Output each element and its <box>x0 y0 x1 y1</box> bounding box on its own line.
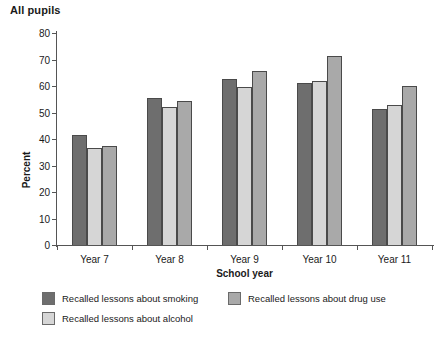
x-tick-label: Year 11 <box>378 254 411 265</box>
y-tick-label: 80 <box>39 28 50 39</box>
y-tick-label: 0 <box>44 240 50 251</box>
bar[interactable] <box>402 86 417 245</box>
y-tick-label: 70 <box>39 54 50 65</box>
x-tick-mark <box>357 245 358 250</box>
bar-set <box>282 33 357 245</box>
bar[interactable] <box>297 83 312 245</box>
y-tick-label: 10 <box>39 213 50 224</box>
x-tick-mark <box>57 245 58 250</box>
legend-item-alcohol: Recalled lessons about alcohol <box>42 312 228 325</box>
x-tick-mark <box>282 245 283 250</box>
bar[interactable] <box>252 71 267 245</box>
x-tick-label: Year 10 <box>302 254 336 265</box>
x-tick-mark <box>207 245 208 250</box>
y-axis-title: Percent <box>21 152 32 189</box>
legend-swatch-drug-use <box>228 292 241 305</box>
legend-label-drug-use: Recalled lessons about drug use <box>248 293 386 304</box>
bar[interactable] <box>312 81 327 245</box>
bar[interactable] <box>102 146 117 245</box>
bar-set <box>357 33 432 245</box>
bar[interactable] <box>162 107 177 245</box>
bar[interactable] <box>72 135 87 245</box>
bar[interactable] <box>372 109 387 245</box>
legend-swatch-alcohol <box>42 312 55 325</box>
bar[interactable] <box>177 101 192 245</box>
legend-swatch-smoking <box>42 292 55 305</box>
bar-set <box>132 33 207 245</box>
bar[interactable] <box>327 56 342 245</box>
legend-row: Recalled lessons about smoking Recalled … <box>42 292 442 305</box>
bar-group: Year 7 <box>57 33 132 245</box>
legend-label-smoking: Recalled lessons about smoking <box>62 293 198 304</box>
x-tick-mark <box>432 245 433 250</box>
legend-label-alcohol: Recalled lessons about alcohol <box>62 313 193 324</box>
bar-group: Year 11 <box>357 33 432 245</box>
legend-row: Recalled lessons about alcohol <box>42 312 442 325</box>
chart-title: All pupils <box>10 4 61 16</box>
bar-set <box>207 33 282 245</box>
bar[interactable] <box>222 79 237 245</box>
bar-group: Year 8 <box>132 33 207 245</box>
y-tick-label: 20 <box>39 187 50 198</box>
x-axis-line <box>56 245 434 246</box>
bar[interactable] <box>387 105 402 245</box>
y-tick-label: 50 <box>39 107 50 118</box>
y-tick-label: 60 <box>39 81 50 92</box>
bar[interactable] <box>237 87 252 245</box>
bar[interactable] <box>87 148 102 245</box>
bar-group: Year 9 <box>207 33 282 245</box>
x-axis-title: School year <box>57 268 432 279</box>
x-tick-mark <box>132 245 133 250</box>
legend: Recalled lessons about smoking Recalled … <box>42 292 442 332</box>
bar[interactable] <box>147 98 162 245</box>
legend-item-drug-use: Recalled lessons about drug use <box>228 292 386 305</box>
x-tick-label: Year 7 <box>80 254 109 265</box>
y-tick-label: 30 <box>39 160 50 171</box>
plot-area: 01020304050607080 Year 7Year 8Year 9Year… <box>57 33 432 245</box>
y-tick-label: 40 <box>39 134 50 145</box>
x-tick-label: Year 8 <box>155 254 184 265</box>
x-tick-label: Year 9 <box>230 254 259 265</box>
bar-set <box>57 33 132 245</box>
legend-item-smoking: Recalled lessons about smoking <box>42 292 228 305</box>
bar-group: Year 10 <box>282 33 357 245</box>
